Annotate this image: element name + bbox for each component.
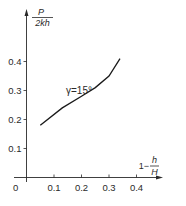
y-axis-label: P 2kh: [32, 7, 53, 28]
y-ticks: 0.10.20.30.4: [8, 56, 26, 154]
x-tick-label: 0.4: [130, 182, 143, 193]
y-label-denominator: 2kh: [34, 18, 50, 28]
x-label-denominator: H: [151, 167, 158, 177]
x-axis-label: 1− h H: [139, 155, 159, 177]
y-tick-label: 0.1: [8, 143, 21, 154]
y-tick-label: 0.2: [8, 114, 21, 125]
y-axis-arrow-icon: [25, 9, 29, 16]
x-tick-label: 0.1: [47, 182, 60, 193]
chart-svg: 0.10.20.30.4 0.10.20.30.4 0 P 2kh 1− h H…: [0, 0, 186, 206]
origin-label: 0: [13, 182, 18, 193]
y-tick-label: 0.3: [8, 85, 21, 96]
x-label-numerator: h: [152, 155, 157, 165]
x-label-prefix: 1−: [139, 161, 149, 171]
x-tick-label: 0.2: [75, 182, 88, 193]
curve-annotation: γ=15°: [66, 85, 92, 96]
chart-figure: 0.10.20.30.4 0.10.20.30.4 0 P 2kh 1− h H…: [0, 0, 186, 206]
x-tick-label: 0.3: [102, 182, 115, 193]
y-label-numerator: P: [38, 7, 44, 17]
y-tick-label: 0.4: [8, 56, 21, 67]
